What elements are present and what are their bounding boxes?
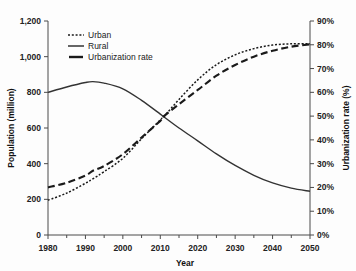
- legend-label-rural: Rural: [88, 41, 108, 51]
- y-tick-label-left: 200: [27, 194, 41, 204]
- chart-legend: Urban Rural Urbanization rate: [68, 30, 153, 62]
- y-tick-label-right: 30%: [317, 159, 334, 169]
- y-tick-label-right: 90%: [317, 16, 334, 26]
- y-tick-label-left: 400: [27, 159, 41, 169]
- chart-container: 02004006008001,0001,200 0%10%20%30%40%50…: [0, 0, 356, 271]
- y-axis-left-ticks: 02004006008001,0001,200: [20, 16, 48, 240]
- legend-item-urban: Urban: [68, 30, 111, 40]
- series-line-urban: [48, 44, 310, 200]
- y-tick-label-left: 0: [36, 230, 41, 240]
- x-tick-label: 2040: [263, 243, 282, 253]
- x-axis-title: Year: [176, 258, 195, 268]
- y-tick-label-left: 600: [27, 123, 41, 133]
- y-tick-label-right: 80%: [317, 40, 334, 50]
- legend-label-urban: Urban: [88, 30, 111, 40]
- legend-item-rural: Rural: [68, 41, 108, 51]
- line-chart: 02004006008001,0001,200 0%10%20%30%40%50…: [0, 0, 356, 271]
- y-tick-label-right: 60%: [317, 87, 334, 97]
- y-tick-label-right: 50%: [317, 111, 334, 121]
- y-tick-label-right: 40%: [317, 135, 334, 145]
- y-axis-right-ticks: 0%10%20%30%40%50%60%70%80%90%: [310, 16, 334, 240]
- y-tick-label-right: 20%: [317, 182, 334, 192]
- x-tick-label: 1990: [76, 243, 95, 253]
- legend-item-urbanization-rate: Urbanization rate: [69, 52, 153, 62]
- y-tick-label-left: 1,200: [20, 16, 42, 26]
- y-tick-label-left: 800: [27, 87, 41, 97]
- y-tick-label-right: 10%: [317, 206, 334, 216]
- y-axis-left-title: Population (million): [6, 88, 16, 167]
- legend-label-urbanization-rate: Urbanization rate: [88, 52, 153, 62]
- y-tick-label-right: 70%: [317, 64, 334, 74]
- x-tick-label: 2050: [301, 243, 320, 253]
- x-tick-label: 2020: [188, 243, 207, 253]
- x-tick-label: 2000: [113, 243, 132, 253]
- x-tick-label: 1980: [39, 243, 58, 253]
- y-tick-label-left: 1,000: [20, 52, 42, 62]
- series-line-urbanization-rate: [48, 44, 310, 187]
- x-tick-label: 2030: [226, 243, 245, 253]
- x-tick-label: 2010: [151, 243, 170, 253]
- series-line-rural: [48, 82, 310, 192]
- y-axis-right-title: Urbanization rate (%): [341, 85, 351, 170]
- y-tick-label-right: 0%: [317, 230, 330, 240]
